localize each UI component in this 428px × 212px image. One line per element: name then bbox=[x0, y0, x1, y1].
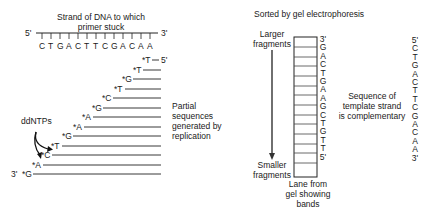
base: T bbox=[84, 41, 89, 51]
lane-line: Lane from bbox=[280, 179, 336, 189]
ddntps-label: ddNTPs bbox=[21, 116, 52, 126]
fragment-label: *G bbox=[122, 74, 132, 84]
fragment-label: *C bbox=[41, 150, 50, 160]
lane-line: bands bbox=[280, 199, 336, 209]
fragment-label: *T bbox=[133, 65, 142, 75]
fragment-label: *A bbox=[73, 122, 82, 132]
fragment-label: *G bbox=[22, 169, 32, 179]
gel-title: Sorted by gel electrophoresis bbox=[254, 9, 364, 19]
base: A bbox=[120, 41, 126, 51]
fragment-3-prime-label: 3' bbox=[11, 169, 17, 179]
base: A bbox=[147, 41, 153, 51]
strand-title: Strand of DNA to which primer stuck bbox=[53, 12, 149, 32]
larger-line: Larger bbox=[248, 29, 296, 39]
smaller-fragments-label: Smaller fragments bbox=[248, 160, 296, 180]
complementary-label: Sequence of template strand is complemen… bbox=[336, 91, 408, 121]
partial-line: generated by bbox=[172, 121, 222, 131]
template-3-prime-label: 3' bbox=[161, 28, 167, 38]
gel-base: 5' bbox=[318, 153, 328, 161]
lane-label: Lane from gel showing bands bbox=[280, 179, 336, 209]
partial-line: Partial bbox=[172, 101, 222, 111]
base: A bbox=[138, 41, 144, 51]
partial-line: replication bbox=[172, 131, 222, 141]
complementary-line: is complementary bbox=[336, 111, 408, 121]
base: A bbox=[66, 41, 72, 51]
fragment-5-prime-label: 5' bbox=[161, 55, 167, 65]
fragment-label: *T bbox=[114, 84, 123, 94]
base: G bbox=[111, 41, 118, 51]
fragment-label: *A bbox=[82, 112, 91, 122]
template-base: 3' bbox=[410, 154, 420, 162]
larger-line: fragments bbox=[248, 39, 296, 49]
fragment-label: *T bbox=[142, 55, 151, 65]
base: C bbox=[39, 41, 45, 51]
base: C bbox=[75, 41, 81, 51]
strand-title-line2: primer stuck bbox=[53, 22, 149, 32]
base: G bbox=[57, 41, 64, 51]
lane-line: gel showing bbox=[280, 189, 336, 199]
partial-line: sequences bbox=[172, 111, 222, 121]
fragment-label: *T bbox=[51, 141, 60, 151]
fragment-label: *C bbox=[102, 93, 111, 103]
template-5-prime-label: 5' bbox=[25, 28, 31, 38]
larger-fragments-label: Larger fragments bbox=[248, 29, 296, 49]
base: T bbox=[48, 41, 53, 51]
smaller-line: Smaller bbox=[248, 160, 296, 170]
fragment-label: *G bbox=[62, 131, 72, 141]
complementary-line: Sequence of bbox=[336, 91, 408, 101]
complementary-line: template strand bbox=[336, 101, 408, 111]
fragment-label: *G bbox=[92, 103, 102, 113]
partial-sequences-label: Partial sequences generated by replicati… bbox=[172, 101, 222, 141]
base: T bbox=[93, 41, 98, 51]
strand-title-line1: Strand of DNA to which bbox=[53, 12, 149, 22]
base: C bbox=[102, 41, 108, 51]
base: C bbox=[129, 41, 135, 51]
fragment-label: *A bbox=[32, 160, 41, 170]
